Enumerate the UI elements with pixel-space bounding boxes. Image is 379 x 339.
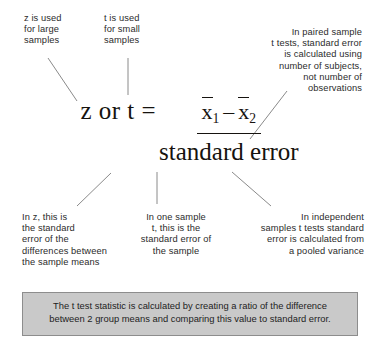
annotation-independent-samples: In independent samples t tests standard … [236, 212, 364, 257]
formula-row: z or t = x1–x2 standard error [0, 96, 379, 167]
x-bar-two-glyph: x [238, 97, 249, 125]
formula-minus-operator: – [219, 99, 238, 124]
annotation-paired-sample: In paired sample t tests, standard error… [228, 27, 362, 94]
leader-line-in-z [77, 173, 111, 206]
x-bar-two-subscript: 2 [249, 111, 256, 126]
annotation-z-large-samples: z is used for large samples [24, 13, 100, 47]
formula-fraction: x1–x2 standard error [159, 96, 299, 167]
x-bar-one-subscript: 1 [213, 111, 220, 126]
leader-line-independent [232, 172, 271, 206]
caption-text: The t test statistic is calculated by cr… [30, 293, 350, 325]
x-bar-one-glyph: x [202, 97, 213, 125]
x-bar-two: x2 [238, 96, 256, 132]
formula-denominator: standard error [159, 134, 299, 167]
annotation-one-sample-t: In one sample t, this is the standard er… [124, 212, 228, 257]
formula: z or t = x1–x2 standard error [0, 96, 379, 167]
leader-line-z-large [48, 58, 77, 101]
annotation-t-small-samples: t is used for small samples [104, 13, 176, 47]
caption-box: The t test statistic is calculated by cr… [22, 292, 358, 336]
x-bar-one: x1 [202, 96, 220, 132]
annotation-in-z-standard-error: In z, this is the standard error of the … [22, 212, 132, 268]
formula-left-hand-side: z or t = [80, 96, 159, 126]
formula-numerator: x1–x2 [197, 96, 262, 134]
diagram-canvas: z is used for large samples t is used fo… [0, 0, 379, 339]
